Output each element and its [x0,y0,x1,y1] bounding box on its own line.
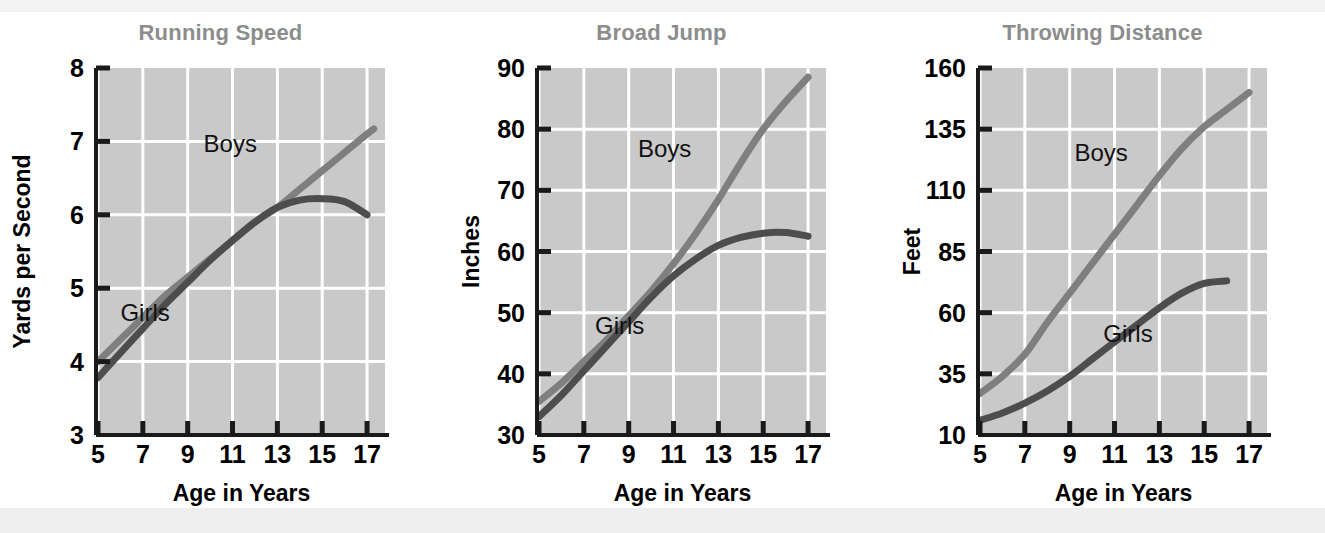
y-tick-label: 60 [497,238,525,266]
y-tick-label: 80 [497,115,525,143]
plot-background-running-speed [98,68,385,435]
y-tick-label: 90 [497,54,525,82]
charts-page: Running Speed 34567857911131517Age in Ye… [0,0,1325,533]
y-tick-label: 135 [924,115,966,143]
y-tick-label: 10 [938,421,966,449]
x-tick-label: 11 [660,440,687,468]
y-axis-title-broad-jump: Inches [458,215,484,288]
x-tick-label: 15 [749,440,777,468]
y-tick-label: 40 [497,360,525,388]
x-tick-label: 17 [353,440,381,468]
series-annotation-girls-running-speed: Girls [120,299,169,326]
x-tick-label: 5 [532,440,546,468]
x-tick-label: 11 [1101,440,1128,468]
charts-row: Running Speed 34567857911131517Age in Ye… [0,0,1325,508]
x-axis-title-broad-jump: Age in Years [614,480,752,506]
x-tick-label: 11 [219,440,246,468]
x-tick-label: 13 [1145,440,1173,468]
y-tick-label: 85 [938,238,966,266]
y-axis-title-throwing-distance: Feet [899,228,925,276]
x-tick-label: 15 [308,440,336,468]
x-tick-label: 17 [1235,440,1263,468]
x-tick-label: 9 [181,440,195,468]
x-tick-label: 9 [1063,440,1077,468]
y-tick-label: 6 [70,201,84,229]
y-tick-label: 110 [926,176,966,204]
y-tick-label: 5 [70,274,84,302]
y-tick-label: 8 [70,54,84,82]
x-tick-label: 13 [704,440,732,468]
y-tick-label: 4 [70,348,84,376]
chart-svg-throwing-distance: 1035608511013516057911131517Age in Years… [882,0,1323,508]
y-tick-label: 3 [70,421,84,449]
x-tick-label: 9 [622,440,636,468]
series-annotation-boys-broad-jump: Boys [638,135,691,162]
chart-svg-broad-jump: 3040506070809057911131517Age in YearsInc… [441,0,882,508]
y-tick-label: 35 [938,360,966,388]
y-tick-label: 50 [497,299,525,327]
x-tick-label: 7 [577,440,591,468]
y-tick-label: 30 [497,421,525,449]
y-tick-label: 7 [70,127,84,155]
y-axis-title-running-speed: Yards per Second [9,154,35,348]
x-tick-label: 15 [1190,440,1218,468]
series-annotation-girls-broad-jump: Girls [595,312,644,339]
x-tick-label: 5 [91,440,105,468]
y-tick-label: 60 [938,299,966,327]
chart-svg-running-speed: 34567857911131517Age in YearsYards per S… [0,0,441,508]
y-tick-label: 70 [497,176,525,204]
series-annotation-boys-running-speed: Boys [204,130,257,157]
series-annotation-boys-throwing-distance: Boys [1074,139,1127,166]
y-tick-label: 160 [924,54,966,82]
chart-panel-broad-jump: Broad Jump 3040506070809057911131517Age … [441,0,882,508]
x-tick-label: 7 [1018,440,1032,468]
series-annotation-girls-throwing-distance: Girls [1103,320,1152,347]
bottom-band [0,508,1325,533]
x-tick-label: 7 [136,440,150,468]
x-axis-title-running-speed: Age in Years [173,480,311,506]
chart-panel-running-speed: Running Speed 34567857911131517Age in Ye… [0,0,441,508]
chart-panel-throwing-distance: Throwing Distance 1035608511013516057911… [882,0,1323,508]
x-tick-label: 5 [973,440,987,468]
x-axis-title-throwing-distance: Age in Years [1055,480,1193,506]
x-tick-label: 13 [263,440,291,468]
x-tick-label: 17 [794,440,822,468]
